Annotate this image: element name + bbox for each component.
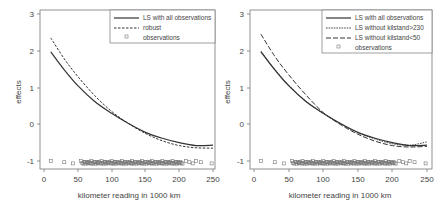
x-tick-label: 100 — [105, 175, 119, 184]
x-axis-label: kilometer reading in 1000 km — [289, 191, 392, 200]
series-line — [261, 51, 427, 145]
x-tick-label: 50 — [74, 175, 83, 184]
legend-label: observations — [143, 34, 181, 41]
x-tick-label: 0 — [42, 175, 47, 184]
legend-label: observations — [355, 44, 393, 51]
x-axis: 0 50 100 150 200 250 — [252, 169, 434, 184]
observation-point — [210, 162, 213, 165]
y-tick-label: 1 — [30, 84, 35, 93]
observation-point — [49, 160, 52, 163]
observation-point — [63, 161, 66, 164]
observation-point — [401, 161, 404, 164]
y-tick-label: 0 — [30, 120, 35, 129]
observation-point — [398, 160, 401, 163]
x-tick-label: 200 — [385, 175, 399, 184]
legend-label: robust — [143, 24, 161, 31]
series-layer — [259, 34, 427, 165]
x-tick-label: 150 — [351, 175, 365, 184]
series-line — [51, 52, 213, 146]
series-line — [261, 52, 427, 146]
y-tick-label: 2 — [30, 47, 35, 56]
observation-point — [195, 160, 198, 163]
x-tick-label: 150 — [138, 175, 152, 184]
series-line — [51, 38, 213, 148]
observation-point — [259, 160, 262, 163]
x-axis-label: kilometer reading in 1000 km — [78, 191, 181, 200]
y-tick-label: 3 — [240, 10, 245, 19]
y-tick-label: 3 — [30, 10, 35, 19]
legend: LS with all observations LS without kils… — [322, 10, 432, 53]
y-tick-label: 1 — [240, 84, 245, 93]
legend-label: LS without kilstand>230 — [355, 24, 424, 31]
legend-label: LS with all observations — [143, 14, 212, 21]
observation-point — [72, 162, 75, 165]
y-axis-label: effects — [223, 80, 232, 103]
x-tick-label: 0 — [252, 175, 257, 184]
observation-point — [188, 161, 191, 164]
observation-point — [413, 161, 416, 164]
right-panel: 3 2 1 0 -1 effects 0 50 100 150 200 250 … — [223, 10, 434, 200]
y-tick-label: 0 — [240, 120, 245, 129]
x-tick-label: 100 — [316, 175, 330, 184]
x-tick-label: 50 — [285, 175, 294, 184]
y-tick-label: -1 — [237, 157, 245, 166]
observation-point — [191, 162, 194, 165]
y-axis-label: effects — [14, 80, 23, 103]
observation-point — [273, 161, 276, 164]
y-tick-label: -1 — [27, 157, 35, 166]
observation-point — [282, 162, 285, 165]
observation-point — [199, 161, 202, 164]
observation-point — [424, 162, 427, 165]
x-tick-label: 250 — [206, 175, 220, 184]
observation-point — [408, 160, 411, 163]
y-tick-label: 2 — [240, 47, 245, 56]
x-axis: 0 50 100 150 200 250 — [42, 169, 220, 184]
legend: LS with all observations robust observat… — [110, 10, 215, 43]
legend-label: LS with all observations — [355, 14, 424, 21]
observation-point — [405, 162, 408, 165]
x-tick-label: 250 — [420, 175, 434, 184]
y-axis: 3 2 1 0 -1 — [237, 10, 250, 166]
legend-label: LS without kilstand<50 — [355, 34, 421, 41]
y-axis: 3 2 1 0 -1 — [27, 10, 40, 166]
x-tick-label: 200 — [172, 175, 186, 184]
left-panel: 3 2 1 0 -1 effects 0 50 100 150 200 250 … — [14, 10, 220, 200]
series-layer — [49, 38, 213, 165]
chart-figure: 3 2 1 0 -1 effects 0 50 100 150 200 250 … — [0, 0, 444, 207]
observation-point — [184, 160, 187, 163]
